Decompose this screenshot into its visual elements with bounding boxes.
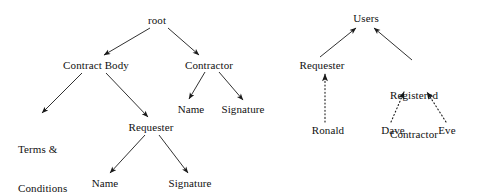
node-requester-signature: Signature [168, 177, 211, 190]
node-contractor: Contractor [185, 59, 233, 72]
node-terms-conditions-line2: Conditions [18, 182, 67, 195]
edge-requester-to-requester-name [110, 135, 145, 173]
node-registered-contractor: Registered Contractor [390, 63, 438, 154]
edge-contract-body-to-terms-conditions [42, 73, 82, 113]
node-terms-conditions: Terms & Conditions [18, 117, 67, 196]
contract-tree-edges [42, 28, 243, 173]
edge-root-to-contract-body [104, 28, 150, 55]
node-users: Users [353, 12, 379, 25]
edge-contractor-to-contractor-name [189, 72, 205, 99]
edge-contract-body-to-requester [106, 73, 148, 117]
edge-registered-contractor-to-users [374, 28, 412, 60]
node-requester-name: Name [92, 177, 119, 190]
node-terms-conditions-line1: Terms & [18, 143, 67, 156]
edge-root-to-contractor [168, 28, 199, 55]
edge-users-requester-to-users [320, 28, 356, 57]
node-users-requester: Requester [300, 59, 345, 72]
edge-contractor-to-contractor-signature [219, 72, 243, 100]
node-contract-body: Contract Body [63, 59, 129, 72]
node-requester: Requester [129, 121, 174, 134]
node-ronald: Ronald [312, 124, 344, 137]
node-contractor-name: Name [178, 103, 205, 116]
node-dave: Dave [381, 124, 405, 137]
edge-requester-to-requester-signature [159, 135, 188, 173]
node-root: root [148, 14, 166, 27]
node-contractor-signature: Signature [221, 103, 264, 116]
node-eve: Eve [438, 124, 455, 137]
node-registered-contractor-line1: Registered [390, 89, 438, 102]
